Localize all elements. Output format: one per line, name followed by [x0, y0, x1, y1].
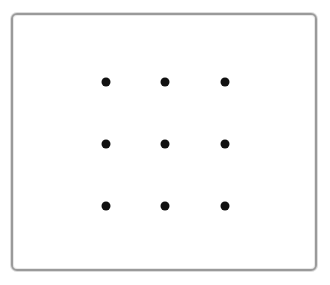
- pattern-dot-r3-c1[interactable]: [102, 202, 111, 211]
- pattern-dot-r2-c2[interactable]: [161, 140, 170, 149]
- pattern-dot-r2-c3[interactable]: [221, 140, 230, 149]
- pattern-dot-r3-c3[interactable]: [221, 202, 230, 211]
- pattern-dot-r1-c2[interactable]: [161, 78, 170, 87]
- pattern-dot-r2-c1[interactable]: [102, 140, 111, 149]
- pattern-dot-r3-c2[interactable]: [161, 202, 170, 211]
- pattern-dot-r1-c1[interactable]: [102, 78, 111, 87]
- pattern-dot-r1-c3[interactable]: [221, 78, 230, 87]
